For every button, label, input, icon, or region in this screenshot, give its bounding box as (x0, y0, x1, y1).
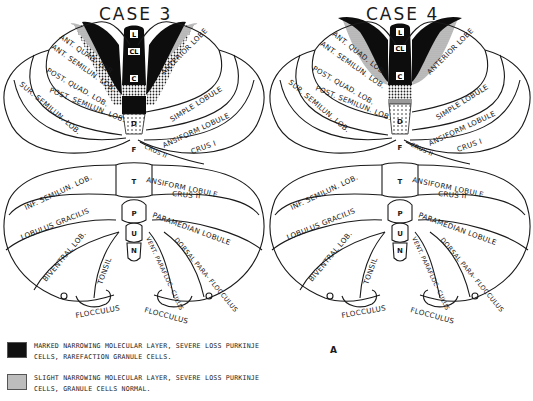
vermis-label-F: F (398, 144, 403, 152)
vermis-label-C: C (398, 73, 403, 81)
cerebellum-diagrams: L CL C D F T P U N ANT. QUAD. LOB. ANT. … (0, 0, 533, 330)
case-4-diagram: L CL C D F T P U N ANT. QUAD. LOB. ANT. … (270, 17, 530, 326)
label-paramedian-lobule: PARAMEDIAN LOBULE (151, 210, 232, 247)
legend-line-1: SLIGHT NARROWING MOLECULAR LAYER, SEVERE… (34, 373, 307, 384)
vermis-label-P: P (131, 210, 136, 218)
vermis-label-N: N (397, 247, 403, 255)
label-flocculus-left: FLOCCULUS (341, 303, 387, 320)
black-swatch (7, 342, 27, 358)
vermis-label-CL: CL (130, 48, 139, 56)
vermis-label-C: C (132, 75, 137, 83)
vermis-label-L: L (398, 29, 402, 37)
label-tonsil: TONSIL (361, 256, 379, 286)
vermis-label-T: T (132, 178, 137, 186)
grey-swatch (7, 374, 27, 390)
legend-line-2: CELLS, GRANULE CELLS NORMAL. (34, 384, 307, 395)
label-tonsil: TONSIL (95, 256, 113, 286)
legend-item-slight: SLIGHT NARROWING MOLECULAR LAYER, SEVERE… (7, 373, 307, 394)
legend-line-2: CELLS, RAREFACTION GRANULE CELLS. (34, 352, 307, 363)
label-biventral-lob: BIVENTRAL LOB. (41, 229, 88, 283)
label-paramedian-lobule: PARAMEDIAN LOBULE (417, 210, 498, 247)
panel-letter: A (330, 345, 337, 355)
vermis-label-U: U (131, 230, 137, 238)
legend-line-1: MARKED NARROWING MOLECULAR LAYER, SEVERE… (34, 341, 307, 352)
vermis-label-D: D (131, 120, 137, 128)
vermis-label-P: P (397, 210, 402, 218)
vermis-label-N: N (131, 247, 137, 255)
case-3-diagram: L CL C D F T P U N ANT. QUAD. LOB. ANT. … (4, 22, 264, 326)
label-biventral-lob: BIVENTRAL LOB. (307, 229, 354, 283)
vermis-label-CL: CL (396, 45, 405, 53)
vermis-label-T: T (398, 178, 403, 186)
vermis-label-F: F (132, 146, 137, 154)
label-crus-ii-lower: CRUS II (172, 189, 201, 200)
vermis-label-D: D (397, 118, 403, 126)
legend-item-marked: MARKED NARROWING MOLECULAR LAYER, SEVERE… (7, 341, 307, 362)
vermis-label-L: L (132, 31, 136, 39)
label-crus-ii-lower: CRUS II (438, 189, 467, 200)
label-flocculus-left: FLOCCULUS (75, 303, 121, 320)
vermis-label-U: U (397, 230, 403, 238)
